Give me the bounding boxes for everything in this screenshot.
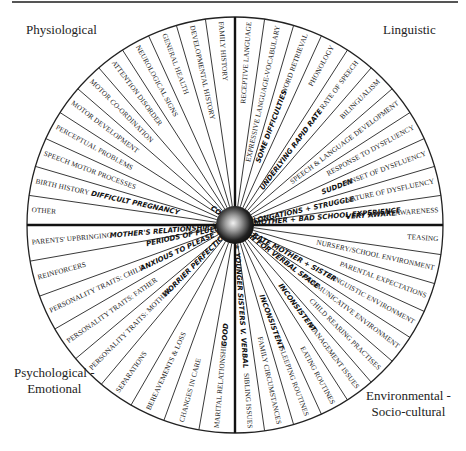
sector-psychological-7: REINFORCERS bbox=[37, 261, 87, 282]
sector-psychological-3: SEPARATIONS bbox=[114, 350, 148, 394]
sector-label: PHONOLOGY bbox=[307, 43, 336, 87]
sector-label: DEVELOPMENTAL HISTORY bbox=[188, 25, 216, 122]
environmental-label-line2: Socio-cultural bbox=[366, 404, 451, 420]
sector-label: MANAGEMENT ISSUES bbox=[307, 322, 361, 390]
sector-physiological-6: MOTOR DEVELOPMENT bbox=[69, 99, 140, 155]
handwritten-note: INCONSISTENT bbox=[277, 282, 319, 334]
spoke-line bbox=[35, 166, 216, 219]
sector-label: RECEPTIVE LANGUAGE bbox=[239, 21, 253, 104]
handwritten-note: GOOD bbox=[220, 323, 230, 347]
sector-environmental-0: TEASING bbox=[407, 233, 439, 243]
quadrant-label-physiological: Physiological bbox=[26, 22, 97, 38]
sector-label: REINFORCERS bbox=[37, 261, 87, 282]
sector-physiological-1: DEVELOPMENTAL HISTORY bbox=[188, 25, 216, 122]
sector-physiological-0: FAMILY HISTORY bbox=[217, 21, 229, 82]
sector-linguistic-0: RECEPTIVE LANGUAGE bbox=[239, 21, 253, 104]
handwritten-note: SUDDEN bbox=[320, 177, 354, 196]
sector-physiological-10: OTHER bbox=[31, 206, 56, 216]
sector-label: PARENTS' UPBRINGING bbox=[31, 231, 112, 246]
sector-label: WORD RETRIEVAL bbox=[280, 32, 310, 95]
sector-label: NURSERY/SCHOOL ENVIRONMENT bbox=[316, 238, 436, 272]
physiological-label: Physiological bbox=[26, 22, 97, 37]
environmental-label-line1: Environmental - bbox=[366, 388, 451, 404]
psychological-label-line1: Psychological - bbox=[14, 365, 95, 381]
sector-label: CHANGES IN CARE bbox=[178, 357, 203, 423]
sector-linguistic-3: PHONOLOGY bbox=[307, 43, 336, 87]
sector-label: SEPARATIONS bbox=[114, 350, 148, 394]
psychological-label-line2: Emotional bbox=[14, 381, 95, 397]
hub-sphere bbox=[216, 206, 254, 244]
sector-label: FAMILY HISTORY bbox=[217, 21, 229, 82]
sector-label: SIBLING ISSUES bbox=[242, 373, 254, 429]
sector-label: TEASING bbox=[407, 233, 439, 243]
quadrant-label-environmental: Environmental - Socio-cultural bbox=[366, 388, 451, 420]
sector-psychological-1: CHANGES IN CARE bbox=[178, 357, 203, 423]
sector-label: AWARENESS bbox=[395, 206, 439, 217]
quadrant-label-psychological: Psychological - Emotional bbox=[14, 365, 95, 397]
sector-environmental-1: NURSERY/SCHOOL ENVIRONMENT bbox=[316, 238, 436, 272]
sector-psychological-0: MARITAL RELATIONSHIPGOOD bbox=[213, 323, 230, 429]
sector-label: MOTOR DEVELOPMENT bbox=[69, 99, 140, 155]
quadrant-label-linguistic: Linguistic bbox=[383, 22, 436, 38]
sector-label: OTHER bbox=[31, 206, 56, 216]
sector-physiological-9: BIRTH HISTORYDIFFICULT PREGNANCY bbox=[35, 177, 181, 217]
linguistic-label: Linguistic bbox=[383, 22, 436, 37]
sector-label: MARITAL RELATIONSHIP bbox=[213, 342, 229, 429]
